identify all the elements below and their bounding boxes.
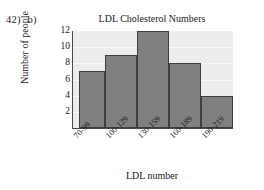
- y-tick-label: 6: [65, 75, 70, 85]
- x-tick-slot: 160-189: [168, 130, 200, 164]
- plot-area: [72, 31, 233, 129]
- x-axis-ticks: 70-99100-129130-159160-189190-219: [72, 130, 232, 164]
- bar-slot: [105, 31, 137, 128]
- x-tick-slot: 100-129: [104, 130, 136, 164]
- x-tick-slot: 70-99: [72, 130, 104, 164]
- y-tick-label: 4: [65, 91, 70, 101]
- y-tick-label: 10: [61, 42, 71, 52]
- bar-slot: [137, 31, 169, 128]
- bar-series: [73, 31, 233, 128]
- histogram-figure: 42)b) LDL Cholesterol Numbers 24681012 N…: [0, 0, 264, 190]
- bar: [137, 31, 169, 128]
- bar-slot: [169, 31, 201, 128]
- y-axis-label: Number of people: [19, 2, 30, 94]
- x-tick-slot: 190-219: [200, 130, 232, 164]
- y-tick-label: 8: [65, 59, 70, 69]
- chart-title: LDL Cholesterol Numbers: [72, 13, 232, 25]
- bar-slot: [73, 31, 105, 128]
- y-axis-ticks: 24681012: [56, 31, 70, 128]
- x-tick-slot: 130-159: [136, 130, 168, 164]
- y-tick-label: 2: [65, 107, 70, 117]
- bar-slot: [201, 31, 233, 128]
- bar: [79, 71, 105, 128]
- y-tick-label: 12: [61, 26, 71, 36]
- x-axis-label: LDL number: [72, 170, 232, 181]
